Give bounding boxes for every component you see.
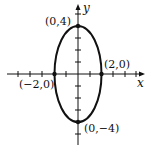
- label-left: (−2,0): [19, 78, 54, 91]
- label-right: (2,0): [104, 58, 130, 71]
- point-top: [76, 24, 80, 28]
- y-axis-label: y: [82, 1, 90, 15]
- point-right: [99, 72, 103, 76]
- label-top: (0,4): [45, 15, 71, 28]
- y-axis-arrow-icon: [76, 4, 81, 10]
- point-left: [52, 72, 56, 76]
- x-axis-label: x: [137, 76, 144, 90]
- point-bottom: [76, 120, 80, 124]
- x-axis: [7, 71, 145, 77]
- label-bottom: (0,−4): [84, 122, 119, 135]
- ellipse-diagram: (0,4) (2,0) (−2,0) (0,−4) y x: [0, 0, 146, 146]
